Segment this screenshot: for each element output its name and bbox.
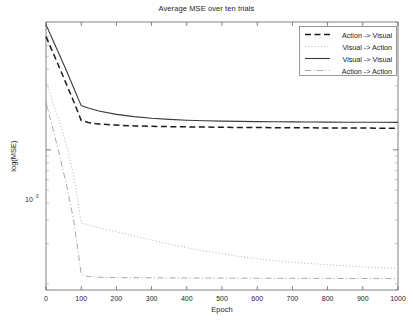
chart-legend[interactable]: Action -> Visual Visual -> Action Visual… (300, 27, 397, 76)
legend-label-0: Action -> Visual (342, 31, 392, 40)
legend-label-3: Action -> Action (342, 67, 392, 76)
y-axis-title: log(MSE) (9, 140, 18, 172)
x-tick-label-1: 100 (75, 295, 87, 302)
x-tick-label-5: 500 (216, 295, 228, 302)
legend-label-1: Visual -> Action (342, 43, 392, 52)
chart-plot-area: 01002003004005006007008009001000 10 0 lo… (0, 0, 413, 325)
x-axis-title: Epoch (211, 305, 232, 314)
x-tick-label-2: 200 (111, 295, 123, 302)
x-tick-label-9: 900 (357, 295, 369, 302)
x-tick-label-4: 400 (181, 295, 193, 302)
figure-canvas: Average MSE over ten trials 010020030040… (0, 0, 413, 325)
y-tick-exponent: 0 (36, 194, 39, 199)
x-tick-label-10: 1000 (390, 295, 406, 302)
x-tick-label-0: 0 (44, 295, 48, 302)
legend-label-2: Visual -> Visual (343, 55, 393, 64)
x-tick-label-7: 700 (287, 295, 299, 302)
x-tick-label-8: 800 (322, 295, 334, 302)
x-tick-label-6: 600 (251, 295, 263, 302)
y-tick-mantissa: 10 (25, 196, 33, 203)
x-tick-label-3: 300 (146, 295, 158, 302)
y-tick-label-1: 10 0 (25, 194, 39, 203)
series-line-1 (46, 80, 398, 268)
series-line-3 (46, 103, 398, 279)
